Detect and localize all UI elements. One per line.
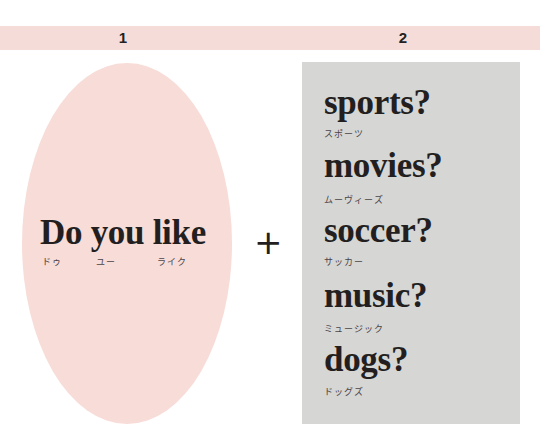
option-word-movies: movies?: [324, 146, 442, 186]
option-word-sports: sports?: [324, 83, 431, 123]
column-number-2: 2: [383, 26, 423, 50]
column-header-band: 1 2: [0, 26, 540, 50]
option-kana-dogs: ドッグズ: [324, 385, 364, 398]
option-kana-soccer: サッカー: [324, 255, 364, 268]
word-options-panel: sports? スポーツ movies? ムーヴィーズ soccer? サッカー…: [302, 62, 520, 424]
option-kana-movies: ムーヴィーズ: [324, 193, 384, 206]
option-word-dogs: dogs?: [324, 340, 408, 380]
phrase-text: Do you like: [40, 212, 206, 254]
phrase-kana-you: ユー: [96, 255, 116, 268]
phrase-kana-like: ライク: [157, 255, 187, 268]
option-word-soccer: soccer?: [324, 211, 433, 251]
option-word-music: music?: [324, 276, 427, 316]
option-kana-sports: スポーツ: [324, 127, 364, 140]
option-kana-music: ミュージック: [324, 322, 384, 335]
column-number-1: 1: [103, 26, 143, 50]
plus-icon: +: [254, 224, 282, 260]
phrase-kana-do: ドゥ: [42, 255, 62, 268]
